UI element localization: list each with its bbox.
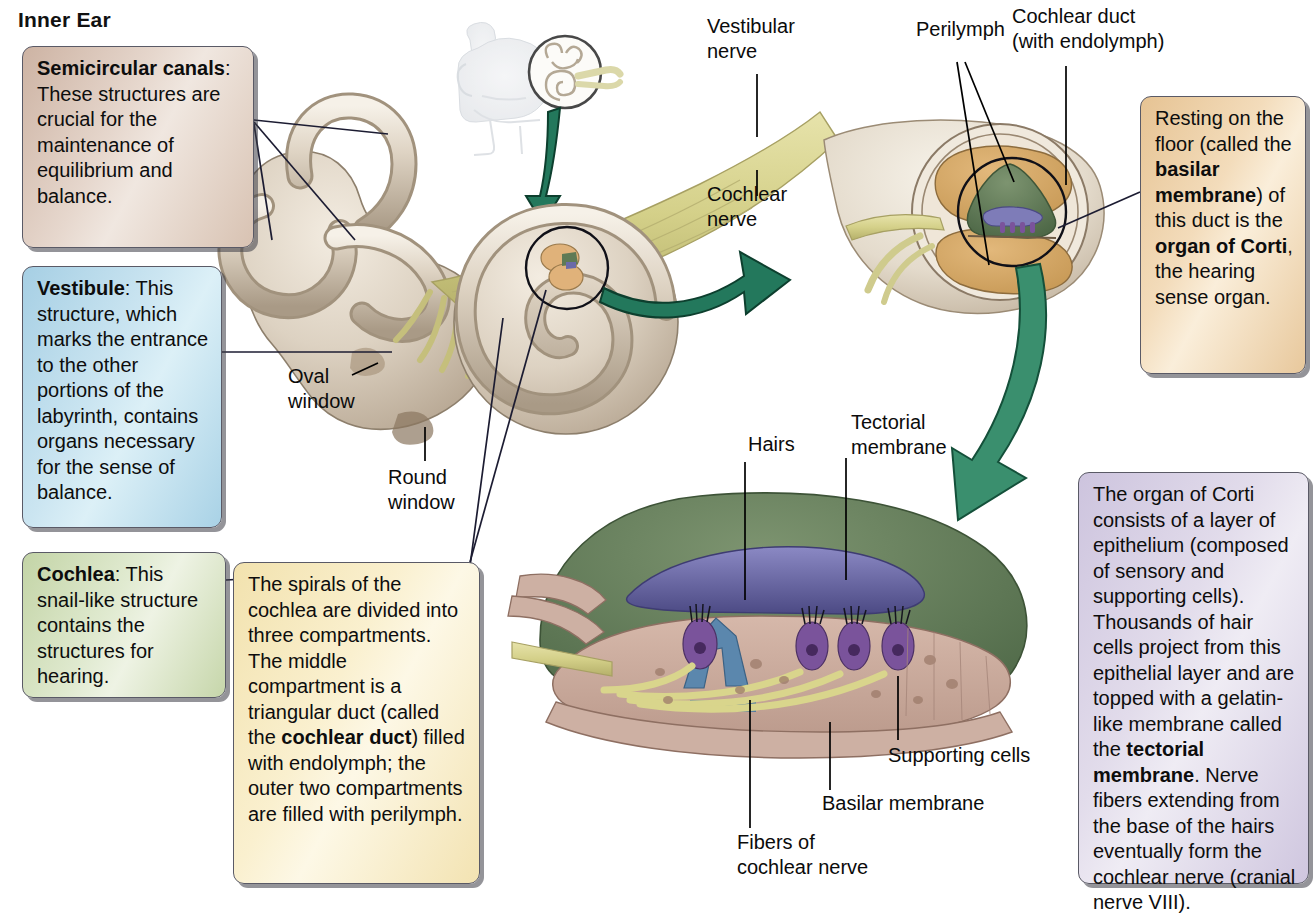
callout-text-spirals-1: The spirals of the cochlea are divided i… — [248, 573, 458, 748]
page-title: Inner Ear — [18, 8, 111, 32]
label-round-window: Round window — [388, 465, 455, 515]
label-oval-window: Oval window — [288, 364, 355, 414]
label-basilar-membrane: Basilar membrane — [822, 791, 984, 816]
callout-bold-cochlear-duct: cochlear duct — [281, 726, 411, 748]
label-hairs: Hairs — [748, 432, 795, 457]
label-tectorial-membrane: Tectorial membrane — [851, 410, 947, 460]
callout-cochlea: Cochlea: This snail-like structure conta… — [22, 552, 226, 698]
arrow-head-to-labyrinth — [526, 108, 560, 224]
callout-text-vestibule: : This structure, which marks the entran… — [37, 277, 208, 503]
label-fibers-of-cochlear-nerve: Fibers of cochlear nerve — [737, 830, 868, 880]
callout-cochlear-duct: The spirals of the cochlea are divided i… — [233, 562, 480, 884]
callout-term-vestibule: Vestibule — [37, 277, 125, 299]
callout-vestibule: Vestibule: This structure, which marks t… — [22, 266, 222, 528]
callout-semicircular-canals: Semicircular canals: These structures ar… — [22, 46, 254, 248]
callout-organ-of-corti-description: The organ of Corti consists of a layer o… — [1078, 472, 1309, 884]
head-inset-icon — [458, 22, 620, 155]
callout-bold-basilar-membrane: basilar membrane — [1155, 158, 1256, 206]
label-supporting-cells: Supporting cells — [888, 743, 1030, 768]
label-perilymph: Perilymph — [916, 17, 1005, 42]
callout-term-semicircular: Semicircular canals — [37, 57, 225, 79]
cochlea-spiral — [454, 210, 678, 434]
callout-organ-of-corti-location: Resting on the floor (called the basilar… — [1140, 96, 1306, 374]
callout-text-semicircular: : These structures are crucial for the m… — [37, 57, 230, 207]
callout-text-resting-1: Resting on the floor (called the — [1155, 107, 1292, 155]
cochlea-cross-section-illustration — [824, 120, 1104, 313]
callout-bold-organ-of-corti: organ of Corti — [1155, 235, 1287, 257]
callout-term-cochlea: Cochlea — [37, 563, 115, 585]
arrow-crosssection-to-corti — [952, 264, 1046, 520]
callout-text-corti-1: The organ of Corti consists of a layer o… — [1093, 483, 1294, 760]
label-cochlear-nerve: Cochlear nerve — [707, 182, 787, 232]
arrow-labyrinth-to-crosssection — [600, 252, 790, 318]
organ-of-corti-illustration — [508, 493, 1027, 758]
label-vestibular-nerve: Vestibular nerve — [707, 14, 795, 64]
label-cochlear-duct: Cochlear duct (with endolymph) — [1012, 4, 1164, 54]
